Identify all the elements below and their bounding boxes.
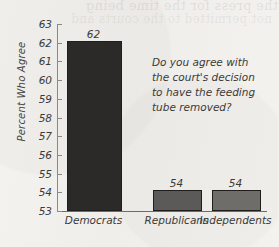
y-tick-mark bbox=[57, 155, 62, 156]
y-tick-label: 54 bbox=[26, 187, 52, 198]
bar bbox=[212, 190, 261, 211]
bar-value-label: 62 bbox=[74, 28, 114, 40]
y-tick-label: 58 bbox=[26, 112, 52, 123]
bar-value-label: 54 bbox=[216, 177, 256, 189]
y-axis-label: Percent Who Agree bbox=[16, 27, 27, 157]
y-axis-ticks: 5354555657585960616263 bbox=[26, 24, 52, 210]
y-tick-label: 62 bbox=[26, 37, 52, 48]
bar bbox=[153, 190, 202, 211]
y-tick-label: 63 bbox=[26, 19, 52, 30]
y-tick-mark bbox=[57, 24, 62, 25]
question-annotation: Do you agree with the court's decision t… bbox=[152, 55, 268, 115]
y-tick-label: 57 bbox=[26, 131, 52, 142]
x-tick-label: Independents bbox=[191, 214, 279, 226]
y-tick-label: 59 bbox=[26, 94, 52, 105]
bar-chart: Percent Who Agree 5354555657585960616263… bbox=[0, 0, 278, 247]
y-tick-label: 61 bbox=[26, 56, 52, 67]
y-tick-mark bbox=[57, 118, 62, 119]
y-tick-label: 55 bbox=[26, 168, 52, 179]
y-tick-mark bbox=[57, 174, 62, 175]
y-tick-mark bbox=[57, 99, 62, 100]
y-tick-mark bbox=[57, 43, 62, 44]
y-tick-mark bbox=[57, 61, 62, 62]
y-tick-mark bbox=[57, 192, 62, 193]
y-tick-mark bbox=[57, 136, 62, 137]
y-tick-mark bbox=[57, 80, 62, 81]
x-axis-line bbox=[57, 211, 267, 212]
y-tick-label: 60 bbox=[26, 75, 52, 86]
x-tick-label: Democrats bbox=[49, 214, 139, 226]
bar bbox=[67, 41, 122, 211]
y-tick-mark bbox=[57, 211, 62, 212]
bar-value-label: 54 bbox=[157, 177, 197, 189]
y-tick-label: 56 bbox=[26, 150, 52, 161]
